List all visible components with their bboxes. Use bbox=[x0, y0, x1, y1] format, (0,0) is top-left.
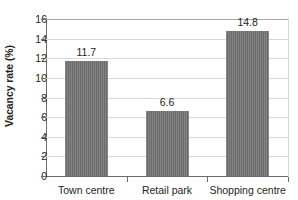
x-tick-mark bbox=[207, 177, 208, 182]
y-axis-title: Vacancy rate (%) bbox=[2, 0, 16, 176]
x-category-label: Shopping centre bbox=[188, 184, 298, 196]
x-tick-mark bbox=[127, 177, 128, 182]
bar-chart: Vacancy rate (%) 0246810121416 11.76.614… bbox=[0, 0, 298, 200]
bar-value-label: 11.7 bbox=[61, 47, 111, 58]
bar-3 bbox=[226, 31, 269, 176]
bar-1 bbox=[65, 61, 108, 176]
bar-value-label: 14.8 bbox=[223, 17, 273, 28]
plot-area: 11.76.614.8 bbox=[46, 19, 288, 176]
x-tick-mark bbox=[288, 177, 289, 182]
x-axis-line bbox=[46, 176, 289, 177]
bar-2 bbox=[146, 111, 189, 176]
bar-value-label: 6.6 bbox=[142, 97, 192, 108]
y-tick-mark bbox=[41, 176, 46, 177]
plot-right-border bbox=[288, 18, 289, 177]
